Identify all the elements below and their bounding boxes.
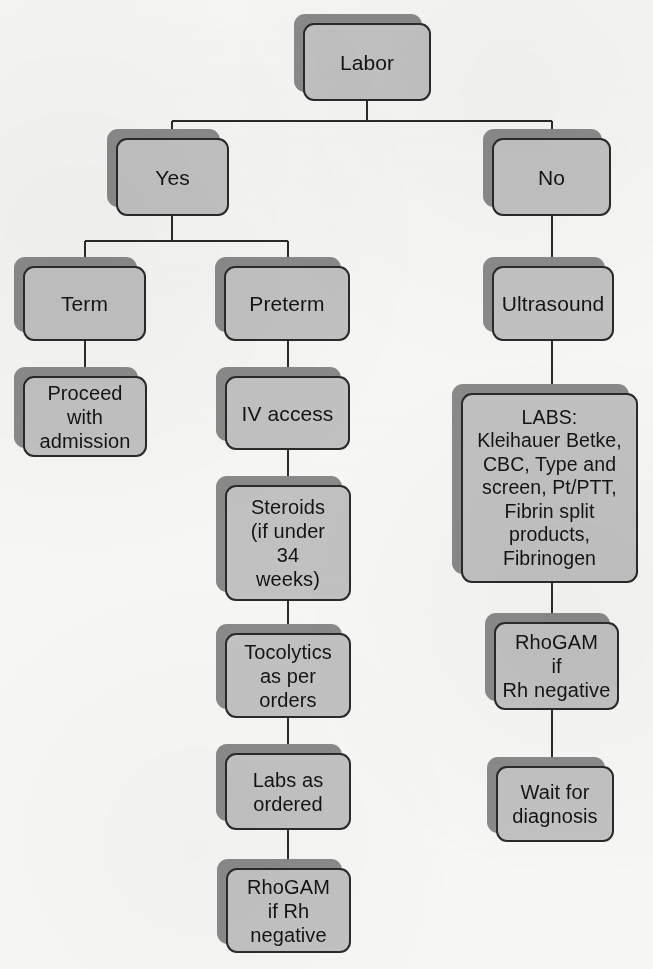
node-box-wait: Wait for diagnosis (496, 766, 614, 842)
node-label-yes: Yes (151, 165, 194, 190)
node-box-iv-access: IV access (225, 376, 350, 450)
node-proceed[interactable]: Proceed with admission (23, 376, 147, 457)
node-label-ultrasound: Ultrasound (498, 291, 609, 316)
node-box-yes: Yes (116, 138, 229, 216)
node-box-no: No (492, 138, 611, 216)
node-labs-panel[interactable]: LABS: Kleihauer Betke, CBC, Type and scr… (461, 393, 638, 583)
node-label-steroids: Steroids (if under 34 weeks) (247, 495, 329, 591)
node-wait[interactable]: Wait for diagnosis (496, 766, 614, 842)
node-box-ultrasound: Ultrasound (492, 266, 614, 341)
node-box-labs-as-ordered: Labs as ordered (225, 753, 351, 830)
node-rhogam-middle[interactable]: RhoGAM if Rh negative (226, 868, 351, 953)
node-label-labs-panel: LABS: Kleihauer Betke, CBC, Type and scr… (473, 406, 626, 571)
node-label-tocolytics: Tocolytics as per orders (240, 640, 336, 712)
node-label-wait: Wait for diagnosis (508, 780, 601, 828)
node-label-no: No (534, 165, 569, 190)
node-labs-as-ordered[interactable]: Labs as ordered (225, 753, 351, 830)
node-box-tocolytics: Tocolytics as per orders (225, 633, 351, 718)
node-label-term: Term (57, 291, 112, 316)
node-preterm[interactable]: Preterm (224, 266, 350, 341)
node-term[interactable]: Term (23, 266, 146, 341)
flowchart-page: LaborYesNoTermPretermUltrasoundProceed w… (0, 0, 653, 969)
node-yes[interactable]: Yes (116, 138, 229, 216)
node-label-labor: Labor (336, 50, 398, 75)
node-no[interactable]: No (492, 138, 611, 216)
node-tocolytics[interactable]: Tocolytics as per orders (225, 633, 351, 718)
node-box-rhogam-middle: RhoGAM if Rh negative (226, 868, 351, 953)
node-label-proceed: Proceed with admission (36, 381, 135, 453)
node-ultrasound[interactable]: Ultrasound (492, 266, 614, 341)
node-labor[interactable]: Labor (303, 23, 431, 101)
node-label-rhogam-middle: RhoGAM if Rh negative (243, 875, 334, 947)
node-box-term: Term (23, 266, 146, 341)
node-box-labs-panel: LABS: Kleihauer Betke, CBC, Type and scr… (461, 393, 638, 583)
node-iv-access[interactable]: IV access (225, 376, 350, 450)
node-rhogam-right[interactable]: RhoGAM if Rh negative (494, 622, 619, 710)
node-label-preterm: Preterm (245, 291, 328, 316)
node-box-proceed: Proceed with admission (23, 376, 147, 457)
node-steroids[interactable]: Steroids (if under 34 weeks) (225, 485, 351, 601)
node-box-steroids: Steroids (if under 34 weeks) (225, 485, 351, 601)
node-label-rhogam-right: RhoGAM if Rh negative (499, 630, 615, 702)
node-box-labor: Labor (303, 23, 431, 101)
node-box-preterm: Preterm (224, 266, 350, 341)
node-label-labs-as-ordered: Labs as ordered (249, 768, 328, 816)
node-box-rhogam-right: RhoGAM if Rh negative (494, 622, 619, 710)
node-label-iv-access: IV access (238, 401, 338, 426)
